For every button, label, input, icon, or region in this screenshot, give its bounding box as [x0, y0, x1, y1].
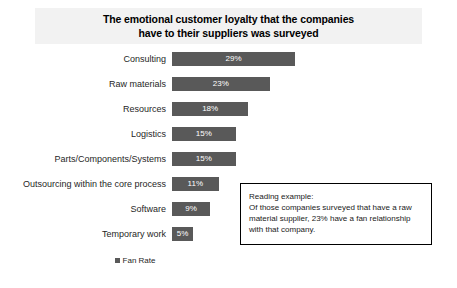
bar-value-label: 29%: [172, 52, 295, 66]
bar-track: 15%: [172, 152, 457, 166]
bar-value-label: 15%: [172, 152, 236, 166]
bar-row: Logistics15%: [0, 127, 457, 141]
chart-canvas: The emotional customer loyalty that the …: [0, 0, 457, 288]
reading-example-text: Reading example: Of those companies surv…: [249, 191, 423, 235]
bar-row: Raw materials23%: [0, 77, 457, 91]
reading-example-box: Reading example: Of those companies surv…: [240, 183, 432, 245]
category-label: Resources: [0, 104, 172, 114]
category-label: Raw materials: [0, 79, 172, 89]
legend-swatch-fan-rate: [115, 258, 120, 263]
chart-title: The emotional customer loyalty that the …: [103, 12, 354, 40]
title-band: The emotional customer loyalty that the …: [35, 8, 422, 44]
bar-value-label: 5%: [172, 227, 193, 241]
bar-track: 23%: [172, 77, 457, 91]
bar-value-label: 23%: [172, 77, 270, 91]
bar-track: 15%: [172, 127, 457, 141]
category-label: Parts/Components/Systems: [0, 154, 172, 164]
bar-row: Consulting29%: [0, 52, 457, 66]
bar-track: 18%: [172, 102, 457, 116]
bar-value-label: 11%: [172, 177, 219, 191]
bar-row: Resources18%: [0, 102, 457, 116]
legend-label-fan-rate: Fan Rate: [123, 256, 156, 265]
category-label: Software: [0, 204, 172, 214]
bar-value-label: 9%: [172, 202, 210, 216]
bar-row: Parts/Components/Systems15%: [0, 152, 457, 166]
bar-value-label: 15%: [172, 127, 236, 141]
bar-value-label: 18%: [172, 102, 248, 116]
bar-track: 29%: [172, 52, 457, 66]
chart-legend: Fan Rate: [0, 256, 270, 265]
category-label: Logistics: [0, 129, 172, 139]
category-label: Consulting: [0, 54, 172, 64]
category-label: Temporary work: [0, 229, 172, 239]
category-label: Outsourcing within the core process: [0, 179, 172, 189]
